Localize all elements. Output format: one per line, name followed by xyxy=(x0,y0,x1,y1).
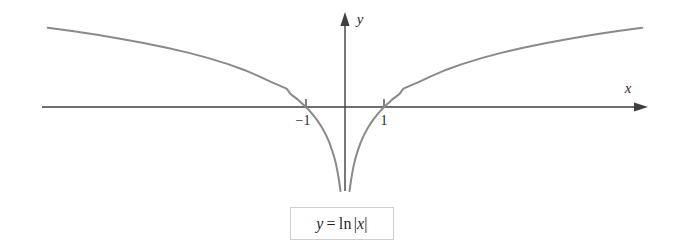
tick-label-positive-one: 1 xyxy=(381,113,388,128)
x-axis-arrowhead xyxy=(634,102,648,111)
equation-caption-box: y=ln|x| xyxy=(290,207,394,240)
curve-branch-positive xyxy=(350,28,643,191)
x-tick-group: −1 1 xyxy=(296,99,388,128)
y-axis-arrowhead xyxy=(340,12,349,26)
equation-function-name: ln xyxy=(339,215,352,232)
axes-group: x y xyxy=(42,11,648,191)
x-axis-label: x xyxy=(624,80,632,96)
function-plot-figure: x y −1 1 y=ln|x| xyxy=(0,0,674,252)
equation-caption-text: y=ln|x| xyxy=(316,215,368,233)
curve-branch-negative xyxy=(48,28,341,191)
y-axis-label: y xyxy=(355,11,364,27)
equation-lhs: y xyxy=(316,215,323,232)
equation-abs-bar-right: | xyxy=(364,215,367,232)
tick-label-negative-one: −1 xyxy=(296,113,311,128)
equation-equals: = xyxy=(327,215,336,232)
